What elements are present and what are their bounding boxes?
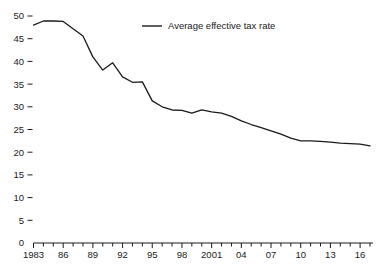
x-axis-tick-label: 92 bbox=[117, 249, 128, 260]
x-axis bbox=[34, 243, 374, 248]
series-line-average-effective-tax-rate bbox=[34, 21, 371, 146]
x-axis-tick-labels: 1983868992959820010407101316 bbox=[23, 249, 365, 260]
y-axis-tick-label: 25 bbox=[13, 124, 24, 135]
y-axis-tick-label: 30 bbox=[13, 101, 24, 112]
y-axis-tick-label: 0 bbox=[19, 237, 24, 248]
line-chart: 05101520253035404550 1983868992959820010… bbox=[0, 0, 385, 273]
data-series-group bbox=[34, 21, 371, 146]
y-axis-tick-label: 45 bbox=[13, 33, 24, 44]
chart-legend: Average effective tax rate bbox=[142, 20, 275, 31]
legend-label: Average effective tax rate bbox=[168, 20, 275, 31]
y-axis-tick-labels: 05101520253035404550 bbox=[13, 10, 24, 248]
y-axis-tick-label: 5 bbox=[19, 215, 24, 226]
x-axis-tick-label: 89 bbox=[88, 249, 99, 260]
x-axis-tick-label: 16 bbox=[355, 249, 366, 260]
x-axis-tick-label: 1983 bbox=[23, 249, 44, 260]
y-axis-tick-label: 40 bbox=[13, 56, 24, 67]
y-axis-tick-label: 15 bbox=[13, 169, 24, 180]
x-axis-tick-label: 07 bbox=[266, 249, 277, 260]
x-axis-tick-label: 2001 bbox=[201, 249, 222, 260]
y-axis-tick-label: 10 bbox=[13, 192, 24, 203]
x-axis-tick-label: 13 bbox=[325, 249, 336, 260]
x-axis-tick-label: 10 bbox=[295, 249, 306, 260]
x-axis-tick-label: 86 bbox=[58, 249, 69, 260]
y-axis-tick-label: 20 bbox=[13, 147, 24, 158]
chart-container: 05101520253035404550 1983868992959820010… bbox=[0, 0, 385, 273]
y-axis-tick-label: 35 bbox=[13, 79, 24, 90]
x-axis-tick-label: 98 bbox=[177, 249, 188, 260]
y-axis-tick-marks bbox=[28, 16, 33, 220]
y-axis-tick-label: 50 bbox=[13, 10, 24, 21]
x-axis-tick-label: 95 bbox=[147, 249, 158, 260]
x-axis-tick-label: 04 bbox=[236, 249, 247, 260]
